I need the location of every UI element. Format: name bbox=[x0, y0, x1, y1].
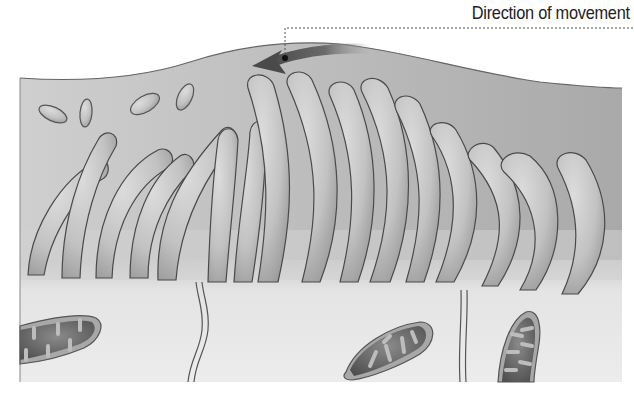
cilia-diagram: Direction of movement bbox=[0, 0, 634, 396]
direction-label: Direction of movement bbox=[472, 2, 630, 24]
